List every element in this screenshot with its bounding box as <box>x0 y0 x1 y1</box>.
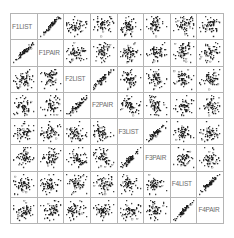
scatter-points <box>91 172 117 197</box>
splom-panel-f4pair-vs-f3pair <box>144 198 171 224</box>
scatter-points <box>171 93 197 118</box>
splom-panel-f2list-vs-f3list <box>118 67 145 93</box>
scatter-points <box>11 40 37 65</box>
splom-panel-f3list-vs-f3pair <box>144 119 171 145</box>
splom-panel-f3list-vs-f4list <box>171 119 198 145</box>
scatter-points <box>144 172 170 197</box>
splom-panel-f3list-vs-f2pair <box>91 119 118 145</box>
scatter-points <box>118 14 144 39</box>
splom-panel-f4list-vs-f2pair <box>91 172 118 198</box>
splom-panel-f4pair-vs-f4list <box>171 198 198 224</box>
splom-panel-f2pair-vs-f4list <box>171 93 198 119</box>
splom-panel-f1pair-vs-f4list <box>171 40 198 66</box>
scatter-points <box>91 198 117 223</box>
scatter-points <box>171 198 197 223</box>
splom-panel-f1pair-vs-f4pair <box>197 40 224 66</box>
scatter-points <box>197 14 223 39</box>
splom-panel-f2pair-vs-f1pair <box>38 93 65 119</box>
splom-diagonal-cell-f4pair: F4PAIR <box>197 198 224 224</box>
splom-panel-f4pair-vs-f1list <box>11 198 38 224</box>
splom-panel-f2pair-vs-f3list <box>118 93 145 119</box>
splom-variable-label: F4PAIR <box>198 207 219 214</box>
scatter-points <box>171 14 197 39</box>
scatter-points <box>91 119 117 144</box>
scatter-points <box>38 93 64 118</box>
scatter-points <box>118 145 144 170</box>
splom-panel-f2pair-vs-f2list <box>64 93 91 119</box>
splom-panel-f1list-vs-f4pair <box>197 14 224 40</box>
scatter-points <box>144 14 170 39</box>
splom-variable-label: F3PAIR <box>145 155 166 162</box>
splom-panel-f4list-vs-f1list <box>11 172 38 198</box>
splom-panel-f2pair-vs-f3pair <box>144 93 171 119</box>
scatter-points <box>11 172 37 197</box>
splom-panel-f3pair-vs-f3list <box>118 145 145 171</box>
splom-panel-f2list-vs-f1list <box>11 67 38 93</box>
scatter-points <box>38 119 64 144</box>
splom-diagonal-cell-f3list: F3LIST <box>118 119 145 145</box>
splom-panel-f4list-vs-f3list <box>118 172 145 198</box>
splom-diagonal-cell-f1pair: F1PAIR <box>38 40 65 66</box>
splom-diagonal-cell-f2pair: F2PAIR <box>91 93 118 119</box>
splom-panel-f2list-vs-f4pair <box>197 67 224 93</box>
scatter-points <box>144 198 170 223</box>
scatter-points <box>197 93 223 118</box>
scatter-points <box>171 40 197 65</box>
scatter-points <box>171 67 197 92</box>
scatter-points <box>144 40 170 65</box>
scatter-points <box>64 14 90 39</box>
splom-panel-f3pair-vs-f1list <box>11 145 38 171</box>
scatter-points <box>11 67 37 92</box>
splom-variable-label: F2LIST <box>65 76 85 83</box>
splom-variable-label: F1PAIR <box>39 50 60 57</box>
splom-diagonal-cell-f4list: F4LIST <box>171 172 198 198</box>
splom-panel-f4list-vs-f2list <box>64 172 91 198</box>
splom-panel-f1list-vs-f1pair <box>38 14 65 40</box>
splom-panel-f1list-vs-f2pair <box>91 14 118 40</box>
scatter-points <box>38 145 64 170</box>
splom-variable-label: F4LIST <box>172 181 192 188</box>
scatter-points <box>64 145 90 170</box>
splom-grid: F1LISTF1PAIRF2LISTF2PAIRF3LISTF3PAIRF4LI… <box>10 13 224 224</box>
scatter-points <box>11 198 37 223</box>
splom-panel-f3pair-vs-f1pair <box>38 145 65 171</box>
scatter-points <box>64 40 90 65</box>
splom-panel-f1pair-vs-f3pair <box>144 40 171 66</box>
scatter-points <box>197 145 223 170</box>
splom-panel-f4pair-vs-f2pair <box>91 198 118 224</box>
splom-panel-f2pair-vs-f4pair <box>197 93 224 119</box>
scatter-points <box>144 119 170 144</box>
scatter-points <box>171 145 197 170</box>
scatter-points <box>11 93 37 118</box>
splom-variable-label: F3LIST <box>119 128 139 135</box>
scatter-points <box>118 198 144 223</box>
scatter-points <box>91 14 117 39</box>
splom-panel-f1list-vs-f3pair <box>144 14 171 40</box>
scatter-points <box>64 93 90 118</box>
scatter-points <box>171 119 197 144</box>
splom-panel-f4list-vs-f1pair <box>38 172 65 198</box>
scatter-points <box>11 145 37 170</box>
splom-panel-f4pair-vs-f2list <box>64 198 91 224</box>
splom-panel-f3pair-vs-f2pair <box>91 145 118 171</box>
scatter-points <box>91 40 117 65</box>
splom-variable-label: F2PAIR <box>92 102 113 109</box>
splom-panel-f4list-vs-f3pair <box>144 172 171 198</box>
splom-panel-f4list-vs-f4pair <box>197 172 224 198</box>
splom-panel-f2list-vs-f4list <box>171 67 198 93</box>
scatter-points <box>38 14 64 39</box>
splom-panel-f2list-vs-f3pair <box>144 67 171 93</box>
scatter-points <box>118 40 144 65</box>
splom-panel-f1pair-vs-f3list <box>118 40 145 66</box>
scatter-points <box>144 67 170 92</box>
splom-panel-f3list-vs-f2list <box>64 119 91 145</box>
scatter-points <box>197 40 223 65</box>
splom-panel-f3list-vs-f1list <box>11 119 38 145</box>
scatterplot-matrix-figure: F1LISTF1PAIRF2LISTF2PAIRF3LISTF3PAIRF4LI… <box>0 0 234 238</box>
scatter-points <box>38 67 64 92</box>
splom-diagonal-cell-f1list: F1LIST <box>11 14 38 40</box>
splom-panel-f3pair-vs-f4list <box>171 145 198 171</box>
splom-panel-f4pair-vs-f3list <box>118 198 145 224</box>
scatter-points <box>118 172 144 197</box>
scatter-points <box>118 67 144 92</box>
